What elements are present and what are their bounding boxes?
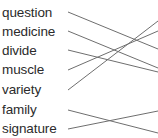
- connector-line[interactable]: [68, 12, 158, 49]
- connector-line[interactable]: [68, 21, 158, 90]
- matching-exercise-canvas: question medicine divide muscle variety …: [0, 0, 158, 138]
- connector-lines-layer: [0, 0, 158, 138]
- connector-line[interactable]: [68, 50, 158, 72]
